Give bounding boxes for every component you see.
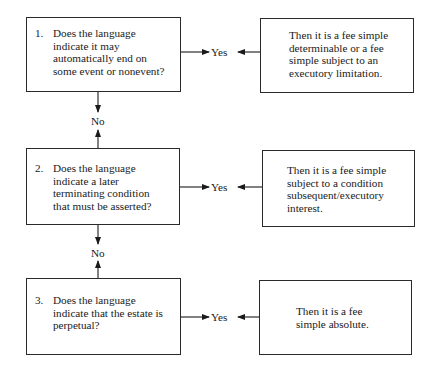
result-box-3: Then it is a fee simple absolute. <box>259 280 412 355</box>
yes-label-3: Yes <box>211 311 227 323</box>
result-box-1: Then it is a fee simple determinable or … <box>260 18 414 93</box>
yes-label-2: Yes <box>211 181 227 193</box>
question-box-2: 2. Does the language indicate a later te… <box>26 148 180 225</box>
result-text: Then it is a fee simple subject to a con… <box>287 164 406 214</box>
question-number: 3. <box>35 294 43 307</box>
no-label-1: No <box>91 115 105 127</box>
no-label-2: No <box>91 247 105 259</box>
question-text: Does the language indicate that the esta… <box>53 294 174 332</box>
result-text: Then it is a fee simple absolute. <box>296 305 403 330</box>
question-number: 1. <box>35 27 43 40</box>
question-text: Does the language indicate a later termi… <box>53 162 173 212</box>
question-box-1: 1. Does the language indicate it may aut… <box>26 17 181 92</box>
question-text: Does the language indicate it may automa… <box>53 27 174 77</box>
yes-label-1: Yes <box>211 46 227 58</box>
question-box-3: 3. Does the language indicate that the e… <box>26 278 181 355</box>
result-text: Then it is a fee simple determinable or … <box>289 29 405 79</box>
result-box-2: Then it is a fee simple subject to a con… <box>262 150 415 227</box>
question-number: 2. <box>35 162 43 175</box>
